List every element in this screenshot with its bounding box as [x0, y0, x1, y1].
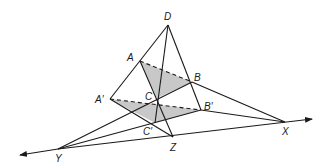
label-Z: Z [169, 142, 177, 153]
label-A: A [126, 52, 134, 63]
label-B-prime: B′ [204, 101, 214, 112]
label-B: B [194, 72, 201, 83]
side-B2C2 [58, 110, 201, 149]
desargues-diagram: D A B C A′ B′ C′ X Y Z [0, 0, 330, 167]
axis-line-left [20, 149, 58, 155]
line-D-B2 [168, 25, 201, 110]
axis-line-right [58, 119, 312, 149]
label-A-prime: A′ [94, 94, 105, 105]
label-Y: Y [55, 153, 63, 164]
label-D: D [164, 11, 171, 22]
label-C: C [145, 91, 153, 102]
label-C-prime: C′ [143, 126, 153, 137]
label-X: X [281, 126, 289, 137]
